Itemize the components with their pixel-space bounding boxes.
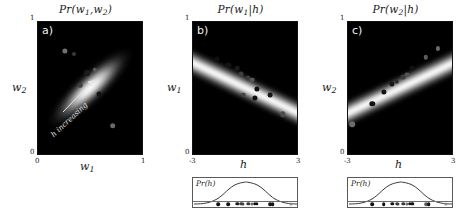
panel-c-xtick-min: -3 [344,157,351,165]
prior-c-baseline [348,201,452,202]
panel-a-xtick-min: 0 [35,157,39,165]
panel-b-xtick-min: -3 [189,157,196,165]
data-point [405,72,410,77]
panel-a-letter: a) [42,24,53,37]
data-point [254,86,259,91]
data-point [250,77,255,82]
panel-a-xtick-max: 1 [141,157,145,165]
prior-c-label: Pr(h) [351,179,370,188]
prior-sample-dot [382,202,386,206]
panel-a-xlabel: w1 [80,160,94,174]
panel-c-xtick-max: 3 [451,157,455,165]
data-point [381,90,386,95]
panel-c-plot-area: c) [347,21,453,155]
prior-b-label: Pr(h) [196,179,215,188]
data-point [280,112,285,117]
panel-c-ytick-min: 0 [340,148,344,156]
panel-b-letter: b) [197,24,208,37]
prior-sample-dot [370,202,374,206]
prior-panel-c: Pr(h) [347,177,453,208]
data-point [239,72,244,77]
data-point [252,95,257,100]
panel-a-ytick-min: 0 [30,148,34,156]
data-point [394,79,399,84]
data-point [241,92,246,97]
data-point [62,48,67,53]
prior-b-baseline [193,201,297,202]
data-point [110,123,116,129]
data-point [92,67,96,71]
panel-c-letter: c) [352,24,362,37]
panel-b-ylabel: w1 [167,81,181,95]
panel-b-ytick-max: 1 [185,14,189,22]
data-point [214,56,219,61]
panel-b-ytick-min: 0 [185,148,189,156]
panel-c-ytick-max: 1 [340,14,344,22]
data-point [96,91,101,96]
figure-canvas: Pr(w1,w2) a) h increasing w2 w1 [0,0,470,212]
conditional-density-band [347,26,453,151]
joint-density-blob [39,39,141,137]
panel-a-plot-area: a) h increasing [37,21,143,155]
panel-c-xlabel: h [395,158,402,171]
data-point [72,52,76,56]
data-point [349,121,355,127]
panel-c: Pr(w2|h) c) w2 h 1 0 -3 3 Pr(h) [310,0,470,212]
panel-a-ylabel: w2 [12,81,26,95]
data-point [226,63,231,68]
data-point [235,66,240,71]
panel-a-title: Pr(w1,w2) [18,3,153,17]
panel-a-ytick-max: 1 [30,14,34,22]
prior-sample-dot [217,202,221,206]
data-point [436,46,440,50]
conditional-density-band [192,26,298,151]
panel-b-plot-area: b) [192,21,298,155]
data-point [84,70,90,76]
h-increasing-label: h increasing [49,100,90,139]
panel-c-ylabel: w2 [322,81,336,95]
data-point [370,101,375,106]
panel-b-xtick-max: 3 [296,157,300,165]
panel-b-xlabel: h [240,158,247,171]
panel-b: Pr(w1|h) b) w1 h 1 0 -3 3 [155,0,310,212]
prior-panel-b: Pr(h) [192,177,298,208]
prior-sample-dot [427,202,431,206]
prior-sample-dot [227,202,231,206]
data-point [410,66,415,71]
panel-a: Pr(w1,w2) a) h increasing w2 w1 [0,0,155,212]
data-point [78,83,83,88]
data-point [424,55,428,59]
prior-sample-dot [271,202,275,206]
data-point [268,93,273,98]
panel-c-title: Pr(w2|h) [328,3,463,17]
panel-b-title: Pr(w1|h) [173,3,308,17]
